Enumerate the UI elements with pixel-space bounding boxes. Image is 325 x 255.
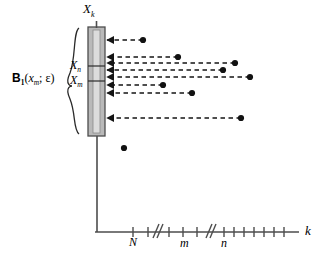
sequence-points (121, 37, 253, 151)
ball-label: B1(xm; ε) (12, 72, 54, 87)
axis-tick-label-N: N (129, 236, 137, 248)
point-3 (220, 67, 226, 73)
axis-break-2 (206, 224, 216, 238)
bar-label-xn: Xn (70, 59, 81, 74)
axis-tick-label-n: n (221, 237, 227, 249)
bar-label-xm: Xm (70, 74, 83, 89)
axis-tick-label-m: m (180, 237, 189, 249)
diagram-canvas: Xk Xn Xm B1(xm; ε) N m n k (0, 0, 325, 255)
point-6 (189, 90, 195, 96)
bar-top-label: Xk (83, 2, 95, 19)
axis-break-1 (153, 224, 163, 238)
point-7 (238, 115, 244, 121)
k-axis (95, 224, 299, 238)
point-5 (160, 82, 166, 88)
axis-label-k: k (305, 224, 311, 237)
point-1 (175, 54, 181, 60)
figure-svg (0, 0, 325, 255)
bar-label-xm-sub: m (77, 80, 82, 89)
point-2 (232, 60, 238, 66)
point-0 (140, 37, 146, 43)
convergence-arrows (107, 40, 250, 118)
point-4 (247, 74, 253, 80)
interval-bar (88, 21, 105, 136)
bar-top-label-sub: k (91, 10, 95, 19)
stray-point-0 (121, 145, 127, 151)
